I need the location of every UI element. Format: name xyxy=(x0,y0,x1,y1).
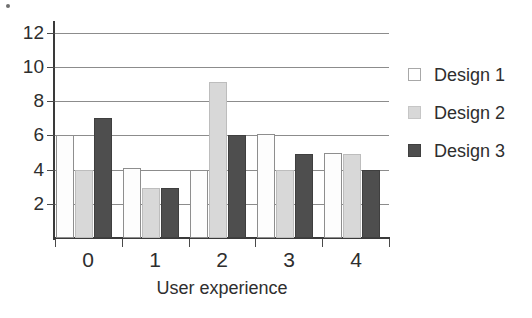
legend-swatch-icon-1 xyxy=(408,68,421,81)
legend-label-2: Design 2 xyxy=(434,103,505,123)
bar-chart-figure: 24681012 01234 User experience Design 1D… xyxy=(0,0,532,318)
y-tick-mark-6 xyxy=(47,135,55,136)
x-tick-mark-1 xyxy=(122,239,123,247)
bar-group-0-series-3 xyxy=(94,118,112,238)
bar-group-3-series-3 xyxy=(295,154,313,238)
y-tick-label-2: 2 xyxy=(4,194,44,213)
bar-group-4-series-3 xyxy=(362,170,380,238)
bar-group-4-series-1 xyxy=(324,153,342,238)
bar-group-4-series-2 xyxy=(343,154,361,238)
bar-group-1-series-2 xyxy=(142,188,160,238)
x-tick-mark-0 xyxy=(55,239,56,247)
x-tick-mark-4 xyxy=(322,239,323,247)
legend-swatch-icon-3 xyxy=(408,144,421,157)
bar-group-0-series-1 xyxy=(56,135,74,238)
y-tick-mark-12 xyxy=(47,33,55,34)
plot-area xyxy=(55,26,389,238)
bar-group-2-series-2 xyxy=(209,82,227,238)
bar-group-2-series-3 xyxy=(228,135,246,238)
y-tick-label-10: 10 xyxy=(4,57,44,76)
legend-item-3: Design 3 xyxy=(408,138,532,163)
y-tick-mark-4 xyxy=(47,170,55,171)
bar-group-1-series-1 xyxy=(123,168,141,238)
bar-group-3-series-1 xyxy=(257,134,275,238)
y-tick-mark-8 xyxy=(47,101,55,102)
y-tick-mark-2 xyxy=(47,204,55,205)
x-tick-mark-2 xyxy=(189,239,190,247)
bar-group-0-series-2 xyxy=(75,170,93,238)
y-tick-mark-10 xyxy=(47,67,55,68)
scan-artifact-speck xyxy=(6,4,10,8)
bar-group-3-series-2 xyxy=(276,170,294,238)
legend-item-2: Design 2 xyxy=(408,100,532,125)
x-tick-mark-3 xyxy=(255,239,256,247)
x-tick-label-2: 2 xyxy=(202,248,242,272)
chart-legend: Design 1Design 2Design 3 xyxy=(408,62,532,176)
x-tick-label-3: 3 xyxy=(269,248,309,272)
bar-group-1-series-3 xyxy=(161,188,179,238)
x-tick-label-0: 0 xyxy=(68,248,108,272)
x-tick-label-4: 4 xyxy=(336,248,376,272)
legend-label-1: Design 1 xyxy=(434,65,505,85)
y-tick-label-8: 8 xyxy=(4,91,44,110)
legend-item-1: Design 1 xyxy=(408,62,532,87)
x-axis-title: User experience xyxy=(55,278,389,298)
y-tick-label-12: 12 xyxy=(4,23,44,42)
y-tick-label-4: 4 xyxy=(4,160,44,179)
y-tick-label-6: 6 xyxy=(4,125,44,144)
x-tick-label-1: 1 xyxy=(135,248,175,272)
legend-label-3: Design 3 xyxy=(434,141,505,161)
x-tick-mark-5 xyxy=(389,239,390,247)
legend-swatch-icon-2 xyxy=(408,106,421,119)
bar-group-2-series-1 xyxy=(190,170,208,238)
